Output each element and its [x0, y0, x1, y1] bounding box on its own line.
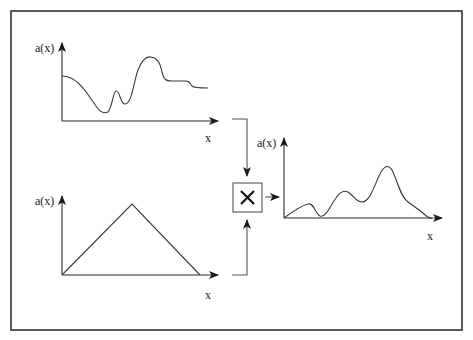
- window-plot: a(x) x: [35, 194, 218, 302]
- signal-x-label: x: [205, 131, 211, 145]
- window-y-label: a(x): [35, 194, 54, 208]
- product-plot: a(x) x: [257, 136, 442, 243]
- signal-y-label: a(x): [35, 41, 54, 55]
- multiply-operator: [233, 183, 262, 212]
- diagram-frame: [11, 11, 462, 330]
- signal-curve: [62, 57, 208, 113]
- windowing-diagram: a(x) x a(x) x a(x) x: [0, 0, 473, 340]
- window-x-label: x: [205, 288, 211, 302]
- product-x-label: x: [427, 229, 433, 243]
- window-to-multiply-connector: [232, 220, 247, 275]
- product-curve: [284, 167, 432, 218]
- signal-plot: a(x) x: [35, 41, 218, 145]
- triangle-window-curve: [62, 204, 200, 275]
- signal-to-multiply-connector: [232, 119, 247, 176]
- product-y-label: a(x): [257, 136, 276, 150]
